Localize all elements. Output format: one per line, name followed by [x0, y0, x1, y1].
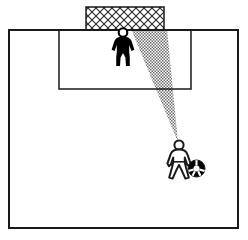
- pitch-diagram-svg: [0, 0, 248, 240]
- soccer-angle-diagram: Soccer goalkeeper shot-blocking angle di…: [0, 0, 248, 240]
- goal-net: [86, 7, 164, 30]
- soccer-ball: [188, 160, 205, 177]
